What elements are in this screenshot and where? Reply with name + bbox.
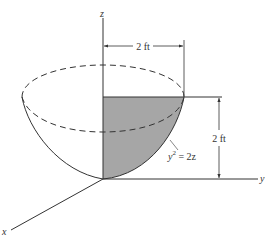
x-axis-label: x xyxy=(1,226,7,237)
paraboloid-left-edge xyxy=(22,97,103,179)
curve-equation: y2 = 2z xyxy=(167,149,197,162)
x-axis xyxy=(11,179,103,230)
paraboloid-diagram: 2 ft 2 ft y2 = 2z z y x xyxy=(0,0,270,245)
shaded-region xyxy=(103,97,184,179)
z-axis-label: z xyxy=(99,8,104,19)
height-label: 2 ft xyxy=(212,133,226,144)
radius-label: 2 ft xyxy=(136,41,150,52)
y-axis-label: y xyxy=(259,173,265,184)
